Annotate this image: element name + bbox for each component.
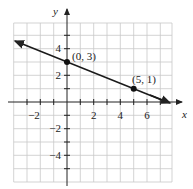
y-tick-label: −2	[49, 122, 61, 134]
graph: (0, 3) (5, 1) y x −2 2 4 6 4 2 −2 −4	[0, 0, 193, 189]
y-tick-label: −4	[49, 149, 61, 161]
x-tick-label: −2	[28, 109, 40, 121]
x-axis-label: x	[181, 108, 187, 120]
x-tick-label: 6	[144, 109, 150, 121]
y-axis-label: y	[52, 5, 58, 17]
y-tick-label: 4	[56, 42, 62, 54]
point-label-0-3: (0, 3)	[72, 50, 96, 63]
point-5-1	[131, 86, 137, 92]
y-tick-label: 2	[56, 69, 62, 81]
x-tick-label: 4	[118, 109, 124, 121]
x-tick-label: 2	[91, 109, 97, 121]
point-label-5-1: (5, 1)	[132, 73, 156, 86]
point-0-3	[64, 59, 70, 65]
